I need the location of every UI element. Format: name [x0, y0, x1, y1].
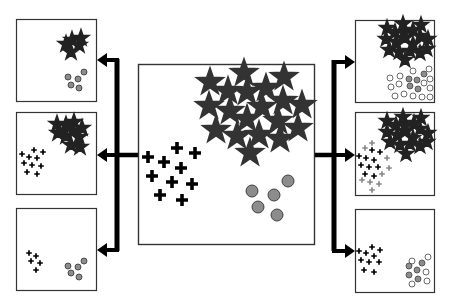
diagram-canvas: [0, 0, 452, 305]
right-box-1: [356, 21, 435, 103]
arrow-head-left-3: [97, 243, 107, 257]
arrow-head-left-2: [97, 148, 107, 162]
right-box-3: [356, 210, 435, 293]
right-branch-arrows: [315, 55, 355, 258]
left-box-1: [17, 20, 97, 102]
arrow-head-right-3: [345, 244, 355, 258]
left-box-2: [17, 113, 97, 195]
left-branch-arrows: [97, 53, 138, 257]
center-box: [139, 65, 315, 245]
arrow-head-left-1: [97, 53, 107, 67]
arrow-head-right-2: [345, 148, 355, 162]
left-box-3: [17, 209, 97, 291]
right-box-2: [356, 113, 435, 196]
arrow-head-right-1: [345, 55, 355, 69]
